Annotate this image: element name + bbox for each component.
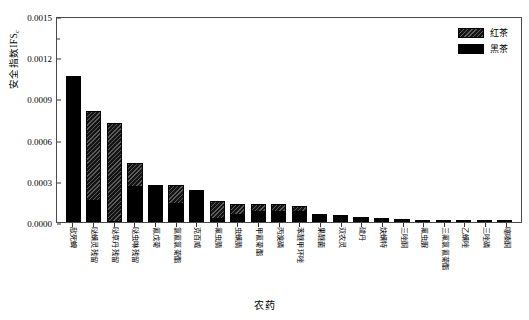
x-axis-label-slot: 丙溴磷 bbox=[268, 224, 289, 286]
x-axis-tick-label: 哒草丹残留 bbox=[110, 227, 117, 263]
bar-group[interactable] bbox=[248, 18, 269, 222]
x-axis-label-slot: 三唑磷 bbox=[475, 224, 496, 286]
x-axis-tick-label: 果醚菌 bbox=[316, 227, 323, 249]
bar-group[interactable] bbox=[125, 18, 146, 222]
bar-segment-heicha[interactable] bbox=[251, 212, 266, 222]
bar-group[interactable] bbox=[63, 18, 84, 222]
x-axis-label-slot: 硫丹 bbox=[351, 224, 372, 286]
legend-item[interactable]: 红茶 bbox=[458, 26, 508, 39]
bar-segment-heicha[interactable] bbox=[333, 215, 348, 222]
bar-segment-heicha[interactable] bbox=[353, 217, 368, 222]
y-axis-tick-label: 0.0012 bbox=[27, 55, 57, 64]
x-axis-tick-label: 甲氰菊酯 bbox=[254, 227, 261, 256]
bar-group[interactable] bbox=[268, 18, 289, 222]
bar-segment-heicha[interactable] bbox=[374, 218, 389, 222]
bar-group[interactable] bbox=[166, 18, 187, 222]
bar-segment-heicha[interactable] bbox=[168, 204, 183, 222]
bar-segment-heicha[interactable] bbox=[189, 190, 204, 222]
bar-group[interactable] bbox=[104, 18, 125, 222]
bar-stack[interactable] bbox=[168, 185, 183, 222]
x-axis-label-slot: 苯醚甲环唑 bbox=[289, 224, 310, 286]
bar-group[interactable] bbox=[186, 18, 207, 222]
bar-segment-heicha[interactable] bbox=[394, 219, 409, 222]
bar-segment-heicha[interactable] bbox=[148, 185, 163, 222]
bar-segment-heicha[interactable] bbox=[127, 187, 142, 222]
y-axis-title: 安全指数IFSc bbox=[6, 4, 21, 114]
bar-group[interactable] bbox=[145, 18, 166, 222]
bar-stack[interactable] bbox=[477, 220, 492, 222]
x-axis-tick-label: 克百威 bbox=[193, 227, 200, 249]
bar-stack[interactable] bbox=[107, 123, 122, 222]
bar-segment-heicha[interactable] bbox=[415, 220, 430, 222]
bar-stack[interactable] bbox=[66, 76, 81, 222]
y-axis-title-text: 安全指数IFS bbox=[9, 33, 19, 89]
bar-stack[interactable] bbox=[394, 219, 409, 222]
bar-segment-heicha[interactable] bbox=[271, 212, 286, 222]
bar-stack[interactable] bbox=[312, 214, 327, 222]
bar-segment-heicha[interactable] bbox=[66, 76, 81, 222]
bar-segment-heicha[interactable] bbox=[456, 220, 471, 222]
y-axis-tick-label: 0.0000 bbox=[27, 220, 57, 229]
x-axis-label-slot: 三氟氯氰菊酯 bbox=[434, 224, 455, 286]
bar-stack[interactable] bbox=[86, 111, 101, 222]
x-axis-label-slot: 氟虫腈 bbox=[206, 224, 227, 286]
x-axis-tick-label: 哒螨灵残留 bbox=[89, 227, 96, 263]
bar-segment-heicha[interactable] bbox=[86, 201, 101, 222]
bar-stack[interactable] bbox=[415, 220, 430, 222]
bar-group[interactable] bbox=[351, 18, 372, 222]
bar-stack[interactable] bbox=[271, 204, 286, 222]
bar-stack[interactable] bbox=[230, 204, 245, 222]
bar-stack[interactable] bbox=[292, 206, 307, 222]
x-axis-tick-label: 硫丹 bbox=[358, 227, 365, 241]
legend-swatch-hongcha bbox=[458, 28, 484, 38]
bar-group[interactable] bbox=[289, 18, 310, 222]
bar-group[interactable] bbox=[310, 18, 331, 222]
bar-stack[interactable] bbox=[456, 220, 471, 222]
bar-stack[interactable] bbox=[374, 218, 389, 222]
x-axis-label-slot: 哒螨灵残留 bbox=[83, 224, 104, 286]
bar-segment-heicha[interactable] bbox=[312, 214, 327, 222]
x-axis-label-slot: 哒草丹残留 bbox=[103, 224, 124, 286]
bar-stack[interactable] bbox=[436, 220, 451, 222]
bar-segment-hongcha[interactable] bbox=[107, 123, 122, 222]
bar-segment-hongcha[interactable] bbox=[127, 163, 142, 187]
bar-stack[interactable] bbox=[127, 163, 142, 222]
chart-figure: 安全指数IFSc 0.00000.00030.00060.00090.00120… bbox=[0, 0, 529, 320]
x-axis-tick-label: 三唑磷 bbox=[482, 227, 489, 249]
bar-group[interactable] bbox=[227, 18, 248, 222]
legend-label: 红茶 bbox=[490, 26, 508, 39]
bar-segment-hongcha[interactable] bbox=[86, 111, 101, 200]
x-axis-label-slot: 克百威 bbox=[186, 224, 207, 286]
bar-group[interactable] bbox=[330, 18, 351, 222]
bar-segment-hongcha[interactable] bbox=[168, 185, 183, 204]
bar-stack[interactable] bbox=[497, 220, 512, 222]
bar-segment-heicha[interactable] bbox=[436, 220, 451, 222]
bar-segment-heicha[interactable] bbox=[292, 212, 307, 222]
x-axis-tick-label: 苯醚甲环唑 bbox=[296, 227, 303, 263]
bar-stack[interactable] bbox=[210, 201, 225, 222]
x-axis-tick-label: 三唑酮 bbox=[399, 227, 406, 249]
x-axis-tick-label: 炔螨特 bbox=[378, 227, 385, 249]
bar-stack[interactable] bbox=[353, 217, 368, 222]
bar-stack[interactable] bbox=[333, 215, 348, 222]
bar-segment-heicha[interactable] bbox=[497, 220, 512, 222]
bar-segment-hongcha[interactable] bbox=[271, 204, 286, 212]
bar-segment-hongcha[interactable] bbox=[210, 201, 225, 219]
bar-stack[interactable] bbox=[148, 185, 163, 222]
bar-segment-hongcha[interactable] bbox=[230, 204, 245, 215]
bar-stack[interactable] bbox=[189, 190, 204, 222]
bar-group[interactable] bbox=[84, 18, 105, 222]
x-axis-tick-label: 虫螨腈 bbox=[234, 227, 241, 249]
y-axis-tick-label: 0.0015 bbox=[27, 14, 57, 23]
x-axis-tick-label: 双农灵 bbox=[337, 227, 344, 249]
x-axis-tick-label: 三氟氯氰菊酯 bbox=[440, 227, 447, 270]
x-axis-label-slot: 炔螨特 bbox=[372, 224, 393, 286]
legend-item[interactable]: 黑茶 bbox=[458, 42, 508, 55]
bar-stack[interactable] bbox=[251, 204, 266, 222]
bar-group[interactable] bbox=[207, 18, 228, 222]
bar-segment-heicha[interactable] bbox=[210, 219, 225, 222]
bar-segment-hongcha[interactable] bbox=[251, 204, 266, 212]
x-axis-label-slot: 噻嗪酮 bbox=[495, 224, 516, 286]
bar-segment-heicha[interactable] bbox=[230, 215, 245, 222]
bar-segment-heicha[interactable] bbox=[477, 220, 492, 222]
